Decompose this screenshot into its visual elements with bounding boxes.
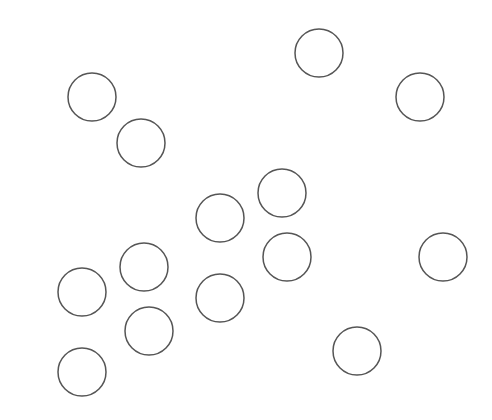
circle-6 xyxy=(196,194,244,242)
circle-7 xyxy=(263,233,311,281)
circle-8 xyxy=(419,233,467,281)
circle-14 xyxy=(58,348,106,396)
circle-10 xyxy=(58,268,106,316)
circle-11 xyxy=(196,274,244,322)
circle-4 xyxy=(117,119,165,167)
circle-1 xyxy=(295,29,343,77)
circle-3 xyxy=(396,73,444,121)
circle-12 xyxy=(125,307,173,355)
circle-9 xyxy=(120,243,168,291)
circle-13 xyxy=(333,327,381,375)
circle-5 xyxy=(258,169,306,217)
circle-2 xyxy=(68,73,116,121)
circle-canvas xyxy=(0,0,492,420)
